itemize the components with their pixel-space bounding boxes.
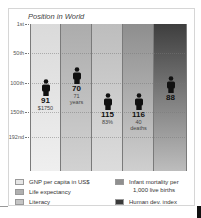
value-unit: years: [61, 99, 92, 105]
rank-label: 115: [92, 110, 123, 119]
gridline-192nd: [30, 137, 187, 138]
gridline-50th: [30, 53, 187, 54]
rank-label: 116: [123, 110, 154, 119]
marker-hdi: 88: [155, 76, 186, 102]
marker-life-expectancy: 70 71 years: [61, 67, 92, 105]
legend-swatch: [15, 189, 24, 195]
marker-gnp: 91 $1750: [30, 79, 61, 111]
marker-infant-mortality: 116 40 deaths: [123, 93, 154, 131]
divider: [0, 206, 8, 207]
value-unit: deaths: [123, 125, 154, 131]
legend-swatch: [115, 179, 124, 185]
legend-swatch: [15, 199, 24, 205]
value-label: 83%: [92, 119, 123, 125]
chart-title: Position in World: [28, 12, 84, 21]
marker-literacy: 115 83%: [92, 93, 123, 125]
person-icon: [41, 79, 51, 96]
person-icon: [103, 93, 113, 110]
rank-label: 70: [61, 84, 92, 93]
rank-label: 88: [155, 93, 186, 102]
person-icon: [72, 67, 82, 84]
edge-marker: [197, 206, 201, 218]
legend-swatch: [115, 199, 124, 205]
person-icon: [166, 76, 176, 93]
legend-swatch: [15, 179, 24, 185]
person-icon: [134, 93, 144, 110]
value-label: $1750: [30, 105, 61, 111]
rank-label: 91: [30, 96, 61, 105]
